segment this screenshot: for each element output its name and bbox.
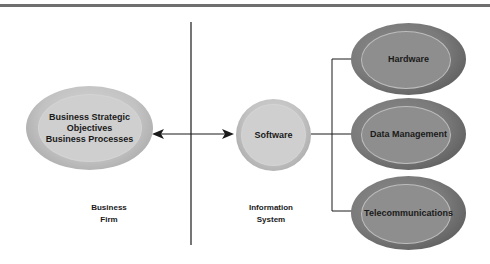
label-line-2: Firm (100, 215, 117, 224)
line-3: Business Processes (46, 134, 134, 144)
label-line-2: System (257, 215, 285, 224)
label-line-1: Information (249, 203, 293, 212)
line-1: Business Strategic (49, 112, 130, 122)
hardware-node: Hardware (351, 23, 466, 95)
business-firm-label: Business Firm (74, 202, 144, 226)
business-strategic-node: Business Strategic Objectives Business P… (26, 86, 153, 170)
data-management-node: Data Management (351, 98, 466, 170)
telecommunications-label: Telecommunications (364, 208, 453, 219)
data-management-label: Data Management (370, 129, 447, 140)
line-2: Objectives (67, 123, 113, 133)
hardware-label: Hardware (388, 54, 429, 65)
telecommunications-node: Telecommunications (351, 176, 466, 250)
information-system-label: Information System (236, 202, 306, 226)
software-node: Software (236, 99, 311, 171)
business-node-text: Business Strategic Objectives Business P… (46, 112, 134, 145)
software-label: Software (254, 130, 292, 141)
label-line-1: Business (91, 203, 127, 212)
